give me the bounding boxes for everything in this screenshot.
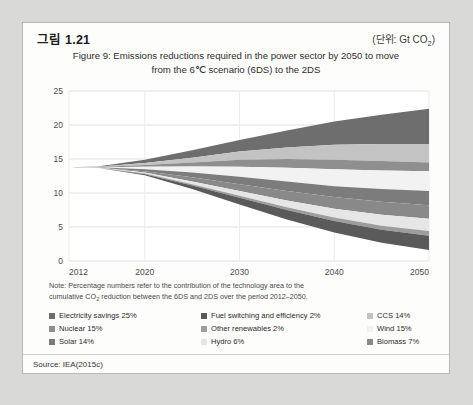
legend-item-nuclear: Nuclear 15%	[49, 324, 201, 333]
screenshot-root: 그림 1.21 (단위: Gt CO2) Figure 9: Emissions…	[0, 0, 473, 405]
legend-item-label: Fuel switching and efficiency 2%	[211, 311, 321, 320]
x-axis-tick-label: 2050	[410, 267, 429, 277]
legend-swatch-icon	[201, 339, 207, 345]
source-label: Source: IEA(2015c)	[33, 360, 103, 369]
legend-item-label: Other renewables 2%	[211, 324, 284, 333]
legend-swatch-icon	[367, 326, 373, 332]
legend-item-label: Nuclear 15%	[59, 324, 102, 333]
legend-item-wind: Wind 15%	[367, 324, 435, 333]
unit-prefix: (단위: Gt CO	[372, 34, 427, 45]
y-axis-tick-label: 15	[54, 154, 64, 164]
x-axis-tick-label: 2012	[69, 267, 88, 277]
y-axis-tick-label: 10	[54, 188, 64, 198]
chart-legend: Electricity savings 25%Fuel switching an…	[49, 311, 435, 346]
chart-note-line-2-b: reduction between the 6DS and 2DS over t…	[99, 292, 308, 301]
legend-item-label: CCS 14%	[377, 311, 410, 320]
y-axis-tick-label: 0	[58, 256, 63, 266]
legend-item-label: Electricity savings 25%	[59, 311, 137, 320]
legend-swatch-icon	[201, 313, 207, 319]
legend-item-ccs: CCS 14%	[367, 311, 435, 320]
chart-plot-area: 051015202520122020203020402050	[37, 83, 437, 283]
legend-item-label: Biomass 7%	[377, 337, 419, 346]
figure-number: 그림 1.21	[37, 29, 90, 48]
source-divider	[23, 354, 449, 355]
legend-swatch-icon	[49, 339, 55, 345]
figure-header: 그림 1.21 (단위: Gt CO2)	[23, 23, 449, 51]
legend-item-other-renewables: Other renewables 2%	[201, 324, 367, 333]
legend-item-label: Solar 14%	[59, 337, 94, 346]
legend-item-hydro: Hydro 6%	[201, 337, 367, 346]
legend-item-fuel-switching-efficiency: Fuel switching and efficiency 2%	[201, 311, 367, 320]
legend-item-label: Wind 15%	[377, 324, 412, 333]
chart-title-line-2: from the 6℃ scenario (6DS) to the 2DS	[43, 63, 429, 77]
legend-swatch-icon	[49, 313, 55, 319]
legend-swatch-icon	[367, 339, 373, 345]
y-axis-tick-label: 20	[54, 120, 64, 130]
chart-note-line-1: Note: Percentage numbers refer to the co…	[49, 281, 429, 292]
chart-note-line-2: cumulative CO2 reduction between the 6DS…	[49, 292, 429, 305]
area-chart: 051015202520122020203020402050	[37, 83, 437, 283]
legend-swatch-icon	[367, 313, 373, 319]
x-axis-tick-label: 2020	[135, 267, 154, 277]
chart-title-line-1: Figure 9: Emissions reductions required …	[43, 49, 429, 63]
x-axis-tick-label: 2030	[230, 267, 249, 277]
figure-card: 그림 1.21 (단위: Gt CO2) Figure 9: Emissions…	[22, 22, 450, 374]
legend-item-biomass: Biomass 7%	[367, 337, 435, 346]
legend-swatch-icon	[49, 326, 55, 332]
chart-note-line-2-a: cumulative CO	[49, 292, 96, 301]
y-axis-tick-label: 25	[54, 86, 64, 96]
chart-note: Note: Percentage numbers refer to the co…	[49, 281, 429, 304]
legend-item-label: Hydro 6%	[211, 337, 244, 346]
legend-item-electricity-savings: Electricity savings 25%	[49, 311, 201, 320]
chart-title: Figure 9: Emissions reductions required …	[43, 49, 429, 77]
legend-swatch-icon	[201, 326, 207, 332]
legend-item-solar: Solar 14%	[49, 337, 201, 346]
y-axis-tick-label: 5	[58, 222, 63, 232]
unit-suffix: )	[432, 34, 435, 45]
unit-label: (단위: Gt CO2)	[372, 31, 435, 48]
x-axis-tick-label: 2040	[325, 267, 344, 277]
